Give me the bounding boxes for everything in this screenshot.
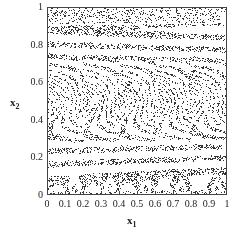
x-tick-label: 0.2 (73, 199, 93, 209)
x-tick-label: 0.6 (145, 199, 165, 209)
x-tick-mark (65, 191, 66, 195)
x-axis-label: x1 (127, 214, 137, 229)
x-tick-mark (191, 191, 192, 195)
x-tick-label: 0.5 (127, 199, 147, 209)
x-tick-label: 0.7 (163, 199, 183, 209)
x-tick-label: 0.8 (181, 199, 201, 209)
y-tick-label: 1 (21, 2, 43, 12)
x-tick-label: 0 (37, 199, 57, 209)
y-tick-label: 0.8 (21, 40, 43, 50)
x-tick-label: 0.9 (199, 199, 219, 209)
scatter-points (48, 8, 226, 194)
x-tick-mark (209, 191, 210, 195)
x-tick-mark (83, 191, 84, 195)
x-tick-mark (173, 191, 174, 195)
x-tick-label: 0.4 (109, 199, 129, 209)
y-tick-label: 0.4 (21, 115, 43, 125)
x-tick-mark (155, 191, 156, 195)
x-tick-mark (137, 191, 138, 195)
x-tick-label: 0.1 (55, 199, 75, 209)
y-axis-label: x2 (10, 96, 20, 111)
x-tick-label: 1 (217, 199, 237, 209)
y-tick-label: 0.2 (21, 152, 43, 162)
x-tick-label: 0.3 (91, 199, 111, 209)
y-tick-label: 0.6 (21, 77, 43, 87)
plot-area (47, 7, 227, 195)
x-tick-mark (119, 191, 120, 195)
x-tick-mark (101, 191, 102, 195)
